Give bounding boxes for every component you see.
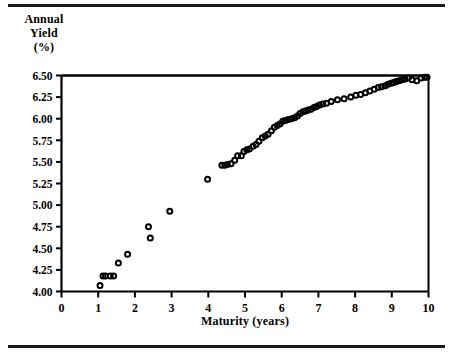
data-point (146, 224, 151, 229)
x-tick-label: 3 (169, 301, 175, 315)
x-axis-title: Maturity (years) (61, 314, 429, 329)
scatter-plot: 4.004.254.504.755.005.255.505.756.006.25… (0, 0, 453, 356)
plot-svg: 4.004.254.504.755.005.255.505.756.006.25… (0, 0, 453, 356)
x-tick-label: 5 (242, 301, 248, 315)
x-tick-label: 7 (315, 301, 321, 315)
x-tick-label: 0 (59, 301, 65, 315)
data-point (335, 97, 340, 102)
y-tick-label: 5.25 (32, 178, 52, 190)
y-tick-label: 5.75 (32, 135, 52, 147)
data-point (98, 283, 103, 288)
data-point (167, 209, 172, 214)
y-tick-label: 4.25 (32, 264, 52, 276)
y-tick-label: 4.00 (32, 286, 52, 298)
x-tick-label: 6 (279, 301, 285, 315)
y-tick-label: 4.75 (32, 221, 52, 233)
y-tick-label: 6.25 (32, 91, 52, 103)
x-tick-label: 2 (132, 301, 138, 315)
data-point (205, 177, 210, 182)
y-tick-label: 4.50 (32, 243, 52, 255)
data-point (148, 235, 153, 240)
x-tick-label: 4 (205, 301, 211, 315)
y-tick-label: 6.00 (32, 113, 52, 125)
y-tick-label: 5.00 (32, 199, 52, 211)
data-point (116, 260, 121, 265)
data-point (329, 99, 334, 104)
y-tick-label: 5.50 (32, 156, 52, 168)
data-point (125, 252, 130, 257)
y-tick-label: 6.50 (32, 70, 52, 82)
x-tick-label: 10 (423, 301, 435, 315)
x-tick-label: 1 (95, 301, 101, 315)
x-tick-label: 9 (389, 301, 395, 315)
x-tick-label: 8 (352, 301, 358, 315)
data-point (342, 96, 347, 101)
figure-container: Annual Yield (%) 4.004.254.504.755.005.2… (0, 0, 453, 356)
data-point-group (98, 75, 430, 288)
